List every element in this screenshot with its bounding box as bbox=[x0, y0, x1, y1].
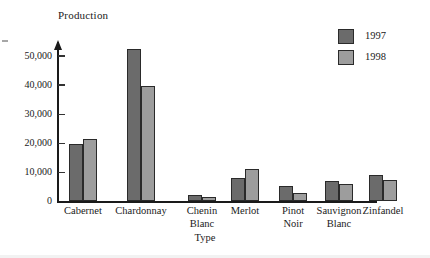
x-axis-line bbox=[57, 201, 377, 203]
legend-item-1997: 1997 bbox=[338, 27, 414, 46]
x-axis-label-sauvignon-blanc: SauvignonBlanc bbox=[317, 205, 362, 230]
bar-sauvignon-blanc-1998 bbox=[339, 184, 353, 202]
bar-merlot-1998 bbox=[245, 169, 259, 201]
bar-group bbox=[69, 41, 97, 201]
bar-pinot-noir-1997 bbox=[279, 186, 293, 202]
bar-pinot-noir-1998 bbox=[293, 193, 307, 202]
bar-chenin-blanc-1997 bbox=[188, 195, 202, 202]
y-axis-tick-label: 0 bbox=[47, 196, 52, 206]
x-axis-label-line1: Chenin bbox=[187, 205, 217, 216]
legend-label-1997: 1997 bbox=[365, 31, 386, 42]
x-axis-label-line1: Merlot bbox=[231, 205, 260, 216]
y-axis-tick-label: 50,000 bbox=[25, 51, 53, 61]
bar-chardonnay-1997 bbox=[127, 49, 141, 202]
x-axis-label-line1: Zinfandel bbox=[363, 205, 404, 216]
x-axis-label-line2: Blanc bbox=[187, 218, 217, 231]
x-axis-label-line2: Noir bbox=[282, 218, 304, 231]
x-axis-label-cabernet: Cabernet bbox=[64, 205, 102, 218]
y-axis-tick-label: 20,000 bbox=[25, 138, 53, 148]
y-axis-tick-label: 40,000 bbox=[25, 80, 53, 90]
x-axis-label-line1: Cabernet bbox=[64, 205, 102, 216]
bar-groups bbox=[59, 41, 377, 201]
x-axis-title-text: Type bbox=[195, 232, 216, 243]
x-axis-title: Type bbox=[0, 232, 430, 243]
y-axis-tick-label: 10,000 bbox=[25, 167, 53, 177]
x-axis-label-merlot: Merlot bbox=[231, 205, 260, 218]
bar-merlot-1997 bbox=[231, 178, 245, 202]
scan-artifact-left bbox=[2, 40, 8, 42]
bar-group bbox=[188, 41, 216, 201]
y-axis-tick-label: 30,000 bbox=[25, 109, 53, 119]
legend-swatch-1997 bbox=[338, 29, 354, 44]
x-axis-label-line2: Blanc bbox=[317, 218, 362, 231]
legend-swatch-1998 bbox=[338, 50, 354, 65]
x-axis-label-zinfandel: Zinfandel bbox=[363, 205, 404, 218]
y-axis-title: Production bbox=[58, 9, 108, 21]
bar-zinfandel-1998 bbox=[383, 180, 397, 202]
bar-chenin-blanc-1998 bbox=[202, 197, 216, 201]
plot-area: 010,00020,00030,00040,00050,000 bbox=[57, 36, 377, 203]
bar-zinfandel-1997 bbox=[369, 175, 383, 201]
x-axis-label-pinot-noir: PinotNoir bbox=[282, 205, 304, 230]
chart-figure: Production 010,00020,00030,00040,00050,0… bbox=[0, 0, 430, 258]
legend: 1997 1998 bbox=[338, 27, 414, 69]
bar-group bbox=[127, 41, 155, 201]
x-axis-label-line1: Pinot bbox=[282, 205, 304, 216]
x-axis-label-chenin-blanc: CheninBlanc bbox=[187, 205, 217, 230]
bar-chardonnay-1998 bbox=[141, 86, 155, 202]
x-axis-label-line1: Chardonnay bbox=[115, 205, 166, 216]
x-axis-label-chardonnay: Chardonnay bbox=[115, 205, 166, 218]
bar-cabernet-1998 bbox=[83, 139, 97, 201]
bar-sauvignon-blanc-1997 bbox=[325, 181, 339, 202]
x-axis-label-line1: Sauvignon bbox=[317, 205, 362, 216]
bar-group bbox=[279, 41, 307, 201]
bar-group bbox=[231, 41, 259, 201]
legend-item-1998: 1998 bbox=[338, 48, 414, 67]
bar-cabernet-1997 bbox=[69, 144, 83, 202]
legend-label-1998: 1998 bbox=[365, 52, 386, 63]
